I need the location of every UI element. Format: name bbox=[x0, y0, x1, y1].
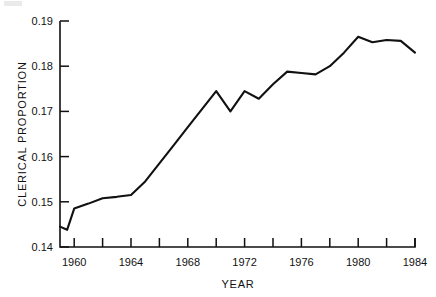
x-axis-tick-labels: 1960196419681972197619801984 bbox=[62, 256, 427, 268]
line-chart: 0.140.150.160.170.180.19 196019641968197… bbox=[0, 0, 436, 297]
y-tick-label: 0.19 bbox=[32, 15, 53, 27]
y-tick-label: 0.15 bbox=[32, 196, 53, 208]
y-tick-label: 0.18 bbox=[32, 60, 53, 72]
y-tick-label: 0.14 bbox=[32, 241, 53, 253]
y-axis-title: CLERICAL PROPORTION bbox=[16, 61, 28, 206]
data-series-line bbox=[60, 37, 415, 230]
x-axis-title: YEAR bbox=[221, 278, 254, 290]
x-tick-label: 1980 bbox=[346, 256, 370, 268]
x-tick-label: 1968 bbox=[176, 256, 200, 268]
x-tick-label: 1984 bbox=[403, 256, 427, 268]
x-tick-label: 1964 bbox=[119, 256, 143, 268]
axis-lines bbox=[60, 21, 415, 247]
x-tick-label: 1976 bbox=[289, 256, 313, 268]
x-tick-label: 1960 bbox=[62, 256, 86, 268]
x-tick-label: 1972 bbox=[232, 256, 256, 268]
y-axis-tick-labels: 0.140.150.160.170.180.19 bbox=[32, 15, 53, 253]
figure-container: 0.140.150.160.170.180.19 196019641968197… bbox=[0, 0, 436, 297]
axis-tick-marks bbox=[60, 21, 415, 247]
y-tick-label: 0.17 bbox=[32, 105, 53, 117]
y-tick-label: 0.16 bbox=[32, 151, 53, 163]
